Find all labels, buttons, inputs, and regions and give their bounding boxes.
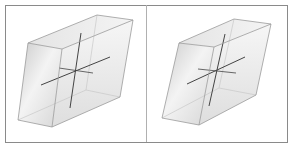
figure [0, 0, 289, 144]
right-panel [162, 19, 271, 125]
left-panel [18, 15, 133, 127]
diagram-canvas [0, 0, 289, 144]
